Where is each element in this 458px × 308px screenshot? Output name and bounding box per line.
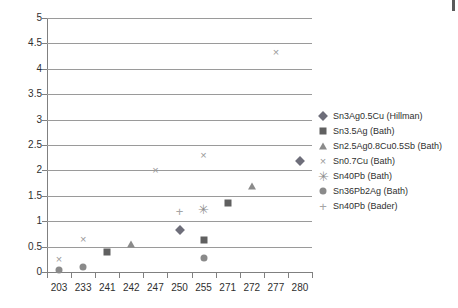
legend-marker-diamond-icon [316, 109, 330, 123]
data-point-circle [320, 187, 327, 194]
data-point-asterisk: ✳ [318, 169, 329, 182]
legend-item-0[interactable]: Sn3Ag0.5Cu (Hillman) [316, 108, 456, 123]
gridline [47, 43, 312, 44]
data-point-cross: × [273, 47, 279, 58]
y-tick-label: 1 [36, 216, 42, 226]
chart-legend: Sn3Ag0.5Cu (Hillman)Sn3.5Ag (Bath)Sn2.5A… [316, 108, 456, 213]
legend-item-1[interactable]: Sn3.5Ag (Bath) [316, 123, 456, 138]
y-tick-label: 2 [36, 165, 42, 175]
x-tick-label: 242 [123, 282, 140, 293]
data-point-plus: + [319, 199, 327, 212]
data-point-square [104, 248, 111, 255]
x-tick-label: 272 [243, 282, 260, 293]
x-tick-label: 271 [219, 282, 236, 293]
x-tick-label: 233 [75, 282, 92, 293]
legend-label: Sn0.7Cu (Bath) [333, 156, 395, 166]
x-tick-mark [47, 273, 48, 278]
gridline [47, 170, 312, 171]
data-point-plus: + [176, 205, 184, 218]
legend-marker-plus-icon: + [316, 199, 330, 213]
data-point-diamond [175, 225, 185, 235]
x-tick-mark [240, 273, 241, 278]
y-tick-label: 5 [36, 13, 42, 23]
gridline [47, 196, 312, 197]
x-tick-label: 280 [292, 282, 309, 293]
gridline [47, 94, 312, 95]
y-tick-label: 0.5 [28, 242, 42, 252]
data-point-triangle [319, 142, 327, 149]
legend-marker-cross-icon: × [316, 154, 330, 168]
x-tick-mark [216, 273, 217, 278]
legend-marker-asterisk-icon: ✳ [316, 169, 330, 183]
scatter-chart: 00.511.522.533.544.55 ×××××✳+ 2032332412… [0, 0, 458, 308]
data-point-square [224, 200, 231, 207]
plot-area: ×××××✳+ [47, 18, 312, 272]
data-point-asterisk: ✳ [198, 202, 209, 215]
gridline [47, 247, 312, 248]
data-point-circle [200, 254, 207, 261]
legend-marker-circle-icon [316, 184, 330, 198]
x-tick-mark [71, 273, 72, 278]
data-point-cross: × [152, 165, 158, 176]
x-tick-label: 250 [171, 282, 188, 293]
data-point-cross: × [200, 150, 206, 161]
data-point-circle [80, 263, 87, 270]
y-tick-label: 3.5 [28, 89, 42, 99]
legend-item-6[interactable]: +Sn40Pb (Bader) [316, 198, 456, 213]
legend-item-3[interactable]: ×Sn0.7Cu (Bath) [316, 153, 456, 168]
y-tick-label: 0 [36, 267, 42, 277]
data-point-diamond [318, 111, 328, 121]
data-point-cross: × [320, 155, 326, 166]
gridline [47, 145, 312, 146]
legend-label: Sn40Pb (Bath) [333, 171, 392, 181]
x-tick-mark [143, 273, 144, 278]
y-tick-label: 4 [36, 64, 42, 74]
data-point-circle [56, 267, 63, 274]
x-tick-mark [312, 273, 313, 278]
legend-item-5[interactable]: Sn36Pb2Ag (Bath) [316, 183, 456, 198]
y-tick-label: 1.5 [28, 191, 42, 201]
x-tick-mark [192, 273, 193, 278]
x-tick-mark [119, 273, 120, 278]
legend-marker-square-icon [316, 124, 330, 138]
data-point-square [200, 236, 207, 243]
data-point-cross: × [80, 233, 86, 244]
gridline [47, 18, 312, 19]
page-corner-artifact [452, 0, 455, 11]
x-axis-line [47, 272, 313, 273]
gridline [47, 221, 312, 222]
legend-item-2[interactable]: Sn2.5Ag0.8Cu0.5Sb (Bath) [316, 138, 456, 153]
data-point-diamond [295, 156, 305, 166]
y-tick-label: 3 [36, 115, 42, 125]
data-point-cross: × [56, 254, 62, 265]
x-tick-label: 255 [195, 282, 212, 293]
legend-marker-triangle-icon [316, 139, 330, 153]
data-point-triangle [248, 182, 256, 189]
x-tick-mark [288, 273, 289, 278]
x-tick-label: 241 [99, 282, 116, 293]
y-tick-label: 2.5 [28, 140, 42, 150]
x-tick-label: 203 [51, 282, 68, 293]
legend-label: Sn3Ag0.5Cu (Hillman) [333, 111, 423, 121]
x-tick-label: 247 [147, 282, 164, 293]
legend-label: Sn36Pb2Ag (Bath) [333, 186, 408, 196]
gridline [47, 120, 312, 121]
legend-label: Sn3.5Ag (Bath) [333, 126, 395, 136]
x-tick-label: 277 [268, 282, 285, 293]
x-tick-mark [95, 273, 96, 278]
data-point-square [320, 127, 327, 134]
x-tick-mark [264, 273, 265, 278]
data-point-triangle [127, 241, 135, 248]
y-tick-label: 4.5 [28, 38, 42, 48]
legend-label: Sn2.5Ag0.8Cu0.5Sb (Bath) [333, 141, 442, 151]
x-tick-mark [167, 273, 168, 278]
legend-item-4[interactable]: ✳Sn40Pb (Bath) [316, 168, 456, 183]
legend-label: Sn40Pb (Bader) [333, 201, 398, 211]
gridline [47, 69, 312, 70]
